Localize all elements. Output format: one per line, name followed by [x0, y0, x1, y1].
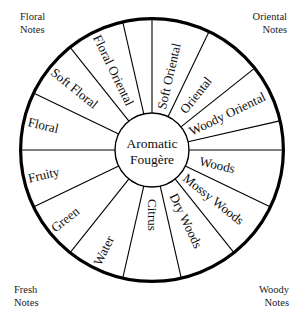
segment-label: Soft Oriental	[154, 41, 184, 111]
segment-label: Soft Floral	[48, 65, 101, 112]
segment-label: Oriental	[177, 73, 216, 116]
fragrance-wheel-page: Soft OrientalOrientalWoody OrientalWoods…	[0, 0, 305, 319]
corner-note-oriental-line1: Oriental	[253, 10, 287, 23]
segment-label: Woods	[198, 154, 236, 177]
corner-note-floral-line1: Floral	[20, 10, 45, 23]
corner-note-woody-line2: Notes	[259, 296, 289, 309]
corner-note-floral: Floral Notes	[20, 10, 45, 36]
corner-note-woody: Woody Notes	[259, 283, 289, 309]
segment-label: Fruity	[27, 164, 62, 186]
fragrance-wheel-diagram: Soft OrientalOrientalWoody OrientalWoods…	[0, 0, 305, 319]
segment-label: Green	[48, 203, 83, 235]
corner-note-woody-line1: Woody	[259, 283, 289, 296]
segment-divider	[123, 186, 144, 278]
hub-label-line2: Fougère	[130, 152, 174, 167]
segment-label: Citrus	[145, 199, 160, 231]
corner-note-fresh: Fresh Notes	[14, 283, 39, 309]
corner-note-oriental: Oriental Notes	[253, 10, 287, 36]
segment-label: Floral	[27, 114, 61, 136]
corner-note-floral-line2: Notes	[20, 23, 45, 36]
segment-label: Water	[90, 233, 117, 268]
corner-note-fresh-line1: Fresh	[14, 283, 39, 296]
corner-note-fresh-line2: Notes	[14, 296, 39, 309]
corner-note-oriental-line2: Notes	[253, 23, 287, 36]
hub-label-line1: Aromatic	[127, 136, 178, 151]
